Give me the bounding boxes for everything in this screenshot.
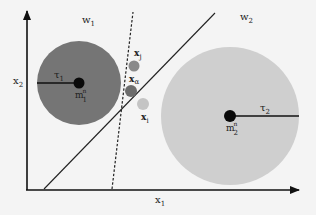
point-xi-label: xi (141, 112, 149, 125)
region-w2-label: w2 (240, 11, 253, 25)
diagram-canvas: x2 x1 w1 w2 τ1 mn1 τ2 mn2 xj xα xi (0, 0, 316, 215)
y-axis-label: x2 (13, 75, 23, 89)
point-xj (129, 61, 140, 72)
point-xi (137, 98, 149, 110)
point-xalpha-label: xα (129, 74, 139, 86)
x-axis-label: x1 (155, 194, 165, 208)
point-xalpha (125, 85, 137, 97)
region-w1-label: w1 (82, 14, 95, 28)
point-xj-label: xj (134, 48, 142, 61)
